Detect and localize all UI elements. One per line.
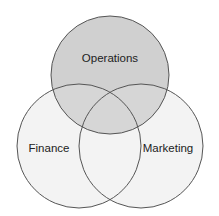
finance-label: Finance <box>29 142 70 154</box>
venn-diagram: Operations Finance Marketing <box>0 0 219 216</box>
operations-label: Operations <box>82 52 139 64</box>
marketing-label: Marketing <box>143 142 194 154</box>
